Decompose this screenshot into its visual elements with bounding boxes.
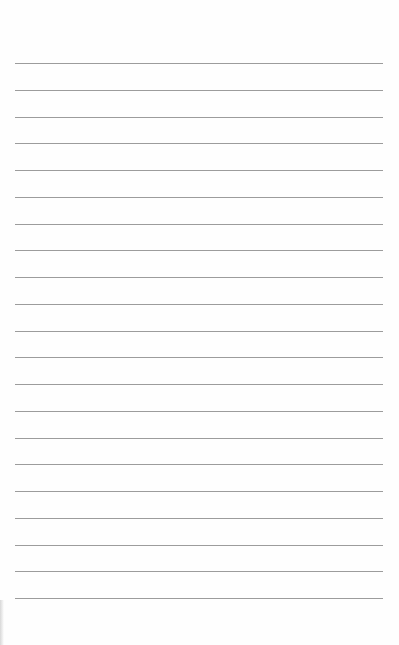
ruled-line	[15, 90, 383, 91]
ruled-line	[15, 304, 383, 305]
ruled-line	[15, 598, 383, 599]
ruled-line	[15, 63, 383, 64]
ruled-line	[15, 518, 383, 519]
ruled-line	[15, 571, 383, 572]
ruled-line	[15, 384, 383, 385]
ruled-line	[15, 143, 383, 144]
ruled-line	[15, 438, 383, 439]
ruled-line	[15, 357, 383, 358]
ruled-line	[15, 411, 383, 412]
ruled-line	[15, 170, 383, 171]
ruled-line	[15, 224, 383, 225]
ruled-line	[15, 117, 383, 118]
page-edge-shadow	[0, 600, 4, 645]
lined-paper-page	[0, 0, 399, 645]
ruled-line	[15, 250, 383, 251]
ruled-line	[15, 197, 383, 198]
ruled-line	[15, 464, 383, 465]
ruled-line	[15, 545, 383, 546]
ruled-line	[15, 491, 383, 492]
ruled-line	[15, 277, 383, 278]
ruled-line	[15, 331, 383, 332]
